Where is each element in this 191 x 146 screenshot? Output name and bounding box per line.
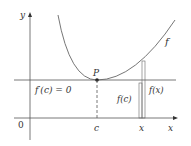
y-axis-arrow-icon xyxy=(28,12,32,17)
diagram-svg: y 0 x f P f′(c) = 0 c x f(c) f(x) xyxy=(0,0,191,146)
fc-label: f(c) xyxy=(116,94,132,104)
x-axis-arrow-icon xyxy=(173,116,178,120)
point-label: P xyxy=(92,68,100,78)
x-axis-label: x xyxy=(168,123,173,133)
fx-label: f(x) xyxy=(148,85,164,95)
fx-bar xyxy=(142,61,145,118)
x-tick-label: x xyxy=(139,123,144,133)
curve-f xyxy=(58,15,175,80)
diagram-canvas: y 0 x f P f′(c) = 0 c x f(c) f(x) xyxy=(0,0,191,146)
tangent-label: f′(c) = 0 xyxy=(34,85,72,95)
c-label: c xyxy=(94,123,99,133)
y-axis-label: y xyxy=(19,10,26,20)
curve-label: f xyxy=(164,36,171,47)
origin-label: 0 xyxy=(18,120,24,130)
fc-bar xyxy=(139,83,142,118)
